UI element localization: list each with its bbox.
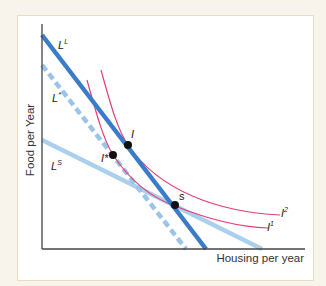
label-LS: LS xyxy=(51,159,62,172)
point-S xyxy=(171,201,179,209)
label-LL: LL xyxy=(58,38,68,51)
point-I xyxy=(124,141,132,149)
label-I2: I2 xyxy=(281,206,288,219)
label-I1: I1 xyxy=(267,220,274,233)
label-Lstar: L* xyxy=(52,91,61,104)
label-point-Istar: I* xyxy=(101,152,108,164)
point-Istar xyxy=(109,151,117,159)
label-point-I: I xyxy=(131,128,134,140)
budget-line-LL xyxy=(42,35,206,249)
chart-plot xyxy=(0,0,326,286)
label-point-S: s xyxy=(179,190,185,202)
y-axis-label: Food per Year xyxy=(24,104,36,176)
x-axis-label: Housing per year xyxy=(216,252,304,264)
